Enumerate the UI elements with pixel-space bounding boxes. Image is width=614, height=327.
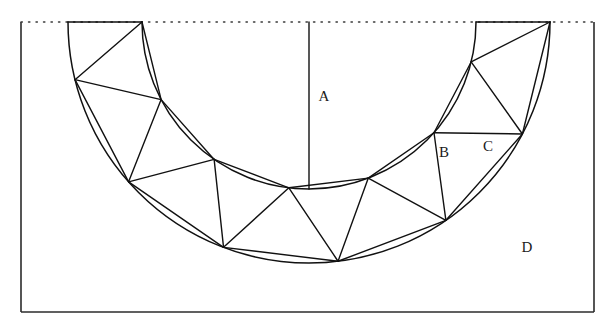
figure-canvas: ABCD — [0, 0, 614, 327]
zigzag-segment — [75, 80, 161, 100]
zigzag-segment — [224, 188, 289, 248]
region-label-b: B — [439, 144, 449, 160]
outer-chord — [522, 22, 550, 134]
zigzag-segment — [338, 178, 368, 261]
outer-chord — [75, 80, 129, 182]
zigzag-segment — [214, 159, 223, 247]
frame-group — [21, 22, 594, 312]
outer-chord — [129, 182, 224, 248]
inner-chord — [368, 133, 434, 178]
region-label-d: D — [521, 239, 532, 255]
region-label-c: C — [483, 138, 493, 154]
inner-chord — [161, 100, 214, 160]
zigzag-segment — [434, 133, 522, 134]
zigzag-segment — [129, 159, 215, 181]
geometry-diagram: ABCD — [0, 0, 614, 327]
zigzag-segment — [471, 22, 550, 62]
inner-chord — [289, 178, 368, 188]
zigzag-segment — [471, 62, 522, 134]
outer-chord — [338, 220, 446, 261]
outer-chord — [224, 247, 339, 261]
zigzag-segment — [75, 22, 142, 80]
region-label-a: A — [318, 88, 329, 104]
zigzag-segment — [289, 188, 338, 261]
inner-chord — [434, 62, 471, 133]
inner-chord — [142, 22, 161, 100]
zigzag-segment — [368, 178, 446, 220]
zigzag-segment — [129, 100, 162, 182]
region-labels: ABCD — [318, 88, 532, 255]
inner-chord — [214, 159, 289, 187]
